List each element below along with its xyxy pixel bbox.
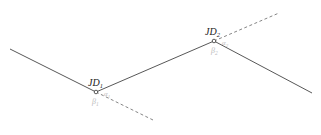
jd1-marker: [94, 90, 98, 94]
jd2-marker: [212, 39, 216, 43]
jd2-label: JD2: [205, 26, 221, 38]
tangent-line-middle: [96, 41, 214, 92]
jd1-beta-label: β1: [91, 97, 99, 107]
tangent-line-start: [10, 49, 96, 92]
alignment-diagram: JD1 α1 β1 JD2 α2 β2: [0, 0, 321, 135]
jd2-beta-label: β2: [210, 46, 218, 56]
jd2-alpha-label: α2: [222, 39, 229, 48]
jd1-alpha-label: α1: [104, 90, 110, 99]
extension-line-jd2: [214, 13, 279, 41]
tangent-line-end: [214, 41, 312, 93]
jd1-label: JD1: [88, 77, 103, 89]
